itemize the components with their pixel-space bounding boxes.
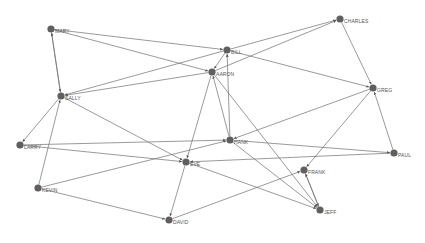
edge-david-to-frank (172, 171, 300, 218)
edge-sally-to-mary (52, 33, 61, 92)
node-label: GREG (377, 87, 392, 93)
node-circle[interactable] (223, 46, 230, 53)
node-label: LARRY (24, 144, 42, 150)
node-label: PAUL (398, 152, 411, 158)
node-larry[interactable]: LARRY (16, 141, 41, 149)
edge-hank-to-paul (234, 140, 390, 152)
node-circle[interactable] (336, 15, 343, 22)
node-jeff[interactable]: JEFF (316, 206, 336, 214)
node-hank[interactable]: HANK (226, 136, 248, 144)
edge-bill-to-sally (65, 51, 224, 95)
edge-larry-to-eve (24, 145, 182, 161)
edge-sally-to-larry (23, 99, 59, 142)
edge-sally-to-eve (64, 98, 182, 160)
edge-hank-to-aaron (213, 76, 229, 137)
node-circle[interactable] (182, 158, 189, 165)
edge-layer (23, 20, 393, 219)
node-sally[interactable]: SALLY (57, 92, 81, 100)
node-label: CHARLES (344, 18, 369, 24)
edge-jeff-to-frank (306, 174, 319, 207)
node-circle[interactable] (369, 84, 376, 91)
node-circle[interactable] (165, 216, 172, 223)
node-circle[interactable] (34, 184, 41, 191)
node-circle[interactable] (16, 141, 23, 148)
node-charles[interactable]: CHARLES (336, 15, 368, 23)
node-bill[interactable]: BILL (223, 46, 241, 54)
node-label: EVE (190, 161, 201, 167)
node-david[interactable]: DAVID (165, 216, 188, 224)
edge-kevin-to-david (41, 189, 165, 219)
edge-larry-to-hank (24, 140, 226, 145)
edge-aaron-to-sally (65, 73, 208, 96)
node-label: DAVID (173, 219, 189, 225)
edge-aaron-to-charles (215, 21, 336, 71)
node-circle[interactable] (47, 25, 54, 32)
node-eve[interactable]: EVE (182, 158, 200, 166)
edge-bill-to-charles (230, 20, 336, 49)
node-kevin[interactable]: KEVIN (34, 184, 57, 192)
node-circle[interactable] (316, 206, 323, 213)
edge-bill-to-greg (230, 51, 369, 87)
node-aaron[interactable]: AARON (208, 68, 234, 76)
edge-eve-to-jeff (189, 163, 316, 208)
node-label: HANK (234, 139, 249, 145)
edge-mary-to-aaron (54, 30, 208, 71)
edge-mary-to-bill (55, 29, 223, 49)
node-circle[interactable] (226, 136, 233, 143)
edge-bill-to-aaron (214, 53, 225, 69)
node-mary[interactable]: MARY (47, 25, 70, 33)
node-circle[interactable] (208, 68, 215, 75)
node-label: KEVIN (42, 187, 58, 193)
network-diagram: MARYCHARLESBILLAARONSALLYGREGLARRYHANKPA… (0, 0, 425, 243)
edge-paul-to-eve (190, 153, 390, 162)
node-frank[interactable]: FRANK (300, 166, 326, 174)
edge-eve-to-david (170, 165, 185, 216)
node-label: MARY (55, 28, 70, 34)
node-greg[interactable]: GREG (369, 84, 392, 92)
node-circle[interactable] (300, 166, 307, 173)
node-label: SALLY (65, 95, 81, 101)
edge-hank-to-bill (227, 54, 230, 136)
node-paul[interactable]: PAUL (390, 149, 411, 157)
node-label: FRANK (308, 169, 326, 175)
node-circle[interactable] (390, 149, 397, 156)
edge-kevin-to-sally (39, 100, 60, 185)
edge-greg-to-hank (234, 89, 370, 138)
node-label: AARON (216, 71, 235, 77)
node-layer: MARYCHARLESBILLAARONSALLYGREGLARRYHANKPA… (16, 15, 411, 224)
edge-paul-to-greg (374, 92, 393, 150)
edge-charles-to-greg (342, 22, 372, 84)
node-circle[interactable] (57, 92, 64, 99)
node-label: JEFF (324, 209, 336, 215)
node-label: BILL (231, 49, 242, 55)
